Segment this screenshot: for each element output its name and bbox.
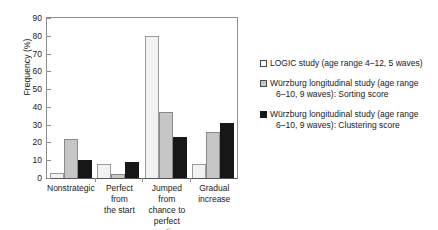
x-axis-labels: NonstrategicPerfect fromthe startJumped … [46,183,238,230]
bar[interactable] [220,123,234,178]
y-axis-tick-label: 70 [33,49,47,59]
legend-item[interactable]: Würzburg longitudinal study (age range6–… [260,109,436,131]
y-axis-tick-label: 90 [33,13,47,23]
bar[interactable] [206,132,220,178]
plot-area: 9080706050403020100 [46,17,238,179]
legend-item[interactable]: Würzburg longitudinal study (age range6–… [260,78,436,100]
y-axis-title: Frequency (%) [22,2,32,132]
bar[interactable] [192,164,206,178]
bar[interactable] [111,174,125,178]
legend-swatch-icon [260,111,267,118]
bar[interactable] [173,137,187,178]
bar-group [95,18,143,178]
legend-label: Würzburg longitudinal study (age range6–… [270,109,418,131]
bar[interactable] [145,36,159,178]
legend-label: Würzburg longitudinal study (age range6–… [270,78,418,100]
bar[interactable] [159,112,173,178]
legend-swatch-icon [260,60,267,67]
bar-group [47,18,95,178]
y-axis-tick-label: 80 [33,31,47,41]
x-axis-category-label: Perfect fromthe start [96,183,143,230]
y-axis-tick-label: 40 [33,102,47,112]
legend-swatch-icon [260,80,267,87]
legend-label: LOGIC study (age range 4–12, 5 waves) [270,58,423,69]
bar-groups [47,18,237,178]
chart-legend: LOGIC study (age range 4–12, 5 waves)Wür… [260,58,436,140]
y-axis-tick-label: 10 [33,155,47,165]
legend-item[interactable]: LOGIC study (age range 4–12, 5 waves) [260,58,436,69]
legend-label-line2: 6–10, 9 waves): Sorting score [270,89,418,100]
bar[interactable] [78,160,92,178]
y-axis-tick-label: 20 [33,137,47,147]
bar[interactable] [97,164,111,178]
y-axis-tick-label: 30 [33,120,47,130]
bar[interactable] [50,173,64,178]
x-axis-category-label: Nonstrategic [46,183,96,230]
bar-group [142,18,190,178]
bar-group [190,18,238,178]
bar-chart-figure: Frequency (%) 9080706050403020100 Nonstr… [0,0,438,230]
y-axis-tick-label: 60 [33,66,47,76]
x-axis-category-label: Gradualincrease [191,183,238,230]
x-axis-category-label: Jumped fromchance toperfect sorting [143,183,190,230]
y-axis-tick-label: 0 [37,173,47,183]
bar[interactable] [125,162,139,178]
bar[interactable] [64,139,78,178]
legend-label-line2: 6–10, 9 waves): Clustering score [270,120,418,131]
y-axis-tick-label: 50 [33,84,47,94]
